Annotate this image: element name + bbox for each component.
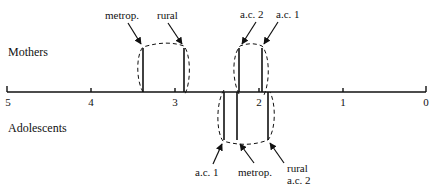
tick-label-3: 3 bbox=[172, 96, 178, 108]
adolescents-label-metrop: metrop. bbox=[238, 166, 272, 178]
group-label-mothers: Mothers bbox=[8, 45, 48, 60]
tick-label-2: 2 bbox=[256, 96, 262, 108]
tick-label-5: 5 bbox=[5, 96, 11, 108]
adolescents-label-rural: rural bbox=[287, 162, 308, 174]
mothers-label-ac2: a.c. 2 bbox=[240, 8, 264, 20]
adolescents-label-ac2: a.c. 2 bbox=[287, 174, 311, 186]
axis bbox=[7, 86, 426, 92]
adolescents-cluster bbox=[218, 90, 274, 144]
mothers-label-metrop: metrop. bbox=[105, 9, 139, 21]
tick-label-0: 0 bbox=[423, 96, 429, 108]
group-label-adolescents: Adolescents bbox=[8, 121, 67, 136]
mothers-clusters bbox=[138, 43, 269, 95]
tick-label-1: 1 bbox=[340, 96, 346, 108]
adolescents-arrows bbox=[213, 143, 284, 164]
mothers-markers bbox=[143, 48, 262, 92]
tick-label-4: 4 bbox=[88, 96, 94, 108]
mothers-label-rural: rural bbox=[157, 9, 178, 21]
mothers-arrows bbox=[128, 22, 278, 44]
mothers-label-ac1: a.c. 1 bbox=[276, 8, 300, 20]
adolescents-label-ac1: a.c. 1 bbox=[195, 166, 219, 178]
diagram-canvas bbox=[0, 0, 433, 194]
